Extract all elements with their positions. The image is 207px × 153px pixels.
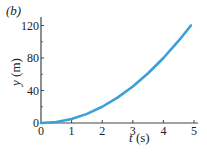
series-line <box>41 26 191 124</box>
y-tick-label: 120 <box>21 19 39 33</box>
x-axis-label: t (s) <box>129 130 150 145</box>
y-tick-label: 0 <box>33 116 39 130</box>
chart: (b) 01234504080120 t (s) y (m) <box>0 0 207 153</box>
x-axis-label-unit: (s) <box>133 130 150 145</box>
axes <box>41 17 198 123</box>
x-tick-label: 4 <box>160 124 166 138</box>
y-axis-label: y (m) <box>8 58 23 88</box>
y-tick-label: 40 <box>27 84 39 98</box>
series-layer <box>41 26 191 124</box>
y-tick-label: 80 <box>27 51 39 65</box>
y-axis-label-unit: (m) <box>8 58 23 80</box>
x-tick-label: 5 <box>191 124 197 138</box>
panel-label: (b) <box>6 3 21 18</box>
x-tick-label: 2 <box>99 124 105 138</box>
ticks: 01234504080120 <box>21 19 197 139</box>
x-tick-label: 1 <box>69 124 75 138</box>
